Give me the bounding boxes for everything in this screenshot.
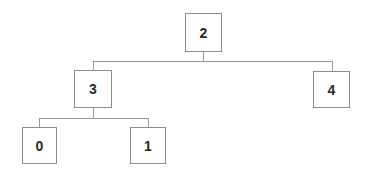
node-label: 4 [328, 82, 336, 98]
tree-node-1: 1 [130, 127, 166, 164]
tree-node-4: 4 [313, 71, 350, 108]
tree-node-0: 0 [22, 127, 57, 164]
connector-2-bar [93, 61, 332, 62]
node-label: 2 [200, 25, 208, 41]
connector-3-bar [39, 118, 148, 119]
tree-node-2: 2 [185, 13, 222, 52]
connector-3-to-1 [148, 118, 149, 127]
connector-3-stem [93, 108, 94, 118]
node-label: 3 [89, 81, 97, 97]
tree-node-3: 3 [74, 70, 112, 108]
node-label: 0 [36, 138, 44, 154]
connector-2-stem [203, 52, 204, 61]
connector-3-to-0 [39, 118, 40, 127]
node-label: 1 [144, 138, 152, 154]
connector-2-to-4 [332, 61, 333, 71]
connector-2-to-3 [93, 61, 94, 70]
